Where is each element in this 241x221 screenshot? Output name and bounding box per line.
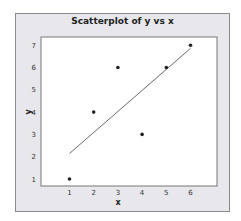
data-point bbox=[189, 43, 193, 47]
x-tick-label: 4 bbox=[140, 189, 145, 197]
data-point bbox=[116, 66, 120, 70]
x-axis-label: x bbox=[115, 198, 121, 207]
y-tick-label: 7 bbox=[32, 42, 36, 50]
x-tick-label: 1 bbox=[67, 189, 71, 197]
y-tick-label: 3 bbox=[32, 131, 36, 139]
y-tick-label: 6 bbox=[32, 64, 37, 72]
y-tick-label: 5 bbox=[32, 86, 36, 94]
data-point bbox=[140, 133, 144, 137]
y-tick-label: 2 bbox=[32, 153, 36, 161]
x-tick-label: 2 bbox=[91, 189, 95, 197]
data-point bbox=[68, 177, 72, 181]
scatter-plot: 1234567 123456 x y bbox=[0, 0, 241, 221]
plot-area bbox=[41, 37, 217, 186]
x-tick-label: 6 bbox=[188, 189, 193, 197]
x-tick-label: 5 bbox=[164, 189, 168, 197]
data-point bbox=[165, 66, 169, 70]
x-tick-label: 3 bbox=[116, 189, 120, 197]
data-point bbox=[92, 110, 96, 114]
y-axis-label: y bbox=[24, 109, 33, 115]
y-tick-label: 1 bbox=[32, 176, 36, 184]
x-axis-ticks: 123456 bbox=[67, 189, 193, 197]
